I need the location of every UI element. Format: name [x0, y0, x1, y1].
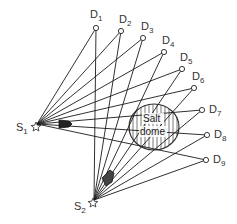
- salt-label: Salt: [143, 113, 160, 124]
- detector-label: D4: [162, 34, 175, 49]
- detector-d9: D9: [203, 153, 226, 168]
- ray-line: [37, 28, 96, 124]
- detector-d4: D4: [161, 34, 175, 55]
- detector-circle-icon: [204, 132, 209, 137]
- detector-circle-icon: [93, 25, 98, 30]
- detector-circle-icon: [118, 28, 123, 33]
- detector-d7: D7: [199, 103, 222, 118]
- detector-d8: D8: [204, 128, 227, 143]
- source-s2: S2: [74, 198, 98, 215]
- detector-label: D6: [192, 70, 205, 85]
- detector-label: D2: [119, 13, 132, 28]
- detector-label: D8: [214, 128, 227, 143]
- arrow-icon: [102, 170, 114, 186]
- detector-label: D1: [90, 8, 103, 23]
- detector-d5: D5: [179, 51, 193, 72]
- detector-circle-icon: [140, 35, 145, 40]
- detector-circle-icon: [203, 157, 208, 162]
- detector-label: D5: [180, 51, 193, 66]
- dome-label: dome: [140, 126, 165, 137]
- ray-line: [37, 38, 143, 124]
- detector-d6: D6: [191, 70, 205, 91]
- detector-circle-icon: [179, 66, 184, 71]
- ray-line: [94, 28, 96, 200]
- source-label: S2: [74, 200, 86, 215]
- detector-label: D7: [209, 103, 222, 118]
- seismic-diagram: D1D2D3D4D5D6D7D8D9 S1S2 Saltdome: [0, 0, 237, 224]
- detector-circle-icon: [161, 49, 166, 54]
- detector-circle-icon: [191, 85, 196, 90]
- source-group: S1S2: [16, 121, 98, 215]
- wave-arrows: [59, 120, 114, 186]
- source-label: S1: [16, 121, 28, 136]
- detector-label: D9: [213, 153, 226, 168]
- detector-d1: D1: [90, 8, 103, 31]
- detector-d2: D2: [118, 13, 132, 34]
- detector-label: D3: [141, 20, 154, 35]
- detector-d3: D3: [140, 20, 154, 41]
- detector-circle-icon: [199, 107, 204, 112]
